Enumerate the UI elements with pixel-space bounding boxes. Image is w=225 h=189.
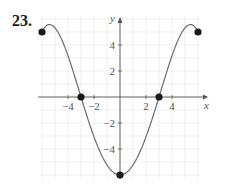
x-axis-label: x [203, 99, 209, 111]
x-tick-label: 2 [143, 100, 149, 112]
y-tick-label: −2 [103, 117, 115, 129]
y-tick-label: 2 [110, 65, 116, 77]
tick-labels: xy−4−22442−2−4 [62, 12, 209, 155]
axes [38, 17, 208, 179]
y-axis-label: y [109, 12, 115, 24]
x-tick-label: −4 [62, 100, 74, 112]
y-tick-label: −4 [103, 143, 115, 155]
data-point [116, 171, 123, 178]
x-tick-label: 4 [169, 100, 175, 112]
data-point [155, 93, 162, 100]
function-graph: xy−4−22442−2−4 [0, 0, 225, 189]
data-point [77, 93, 84, 100]
data-point [194, 28, 201, 35]
x-tick-label: −2 [88, 100, 100, 112]
y-tick-label: 4 [110, 39, 116, 51]
data-point [38, 28, 45, 35]
